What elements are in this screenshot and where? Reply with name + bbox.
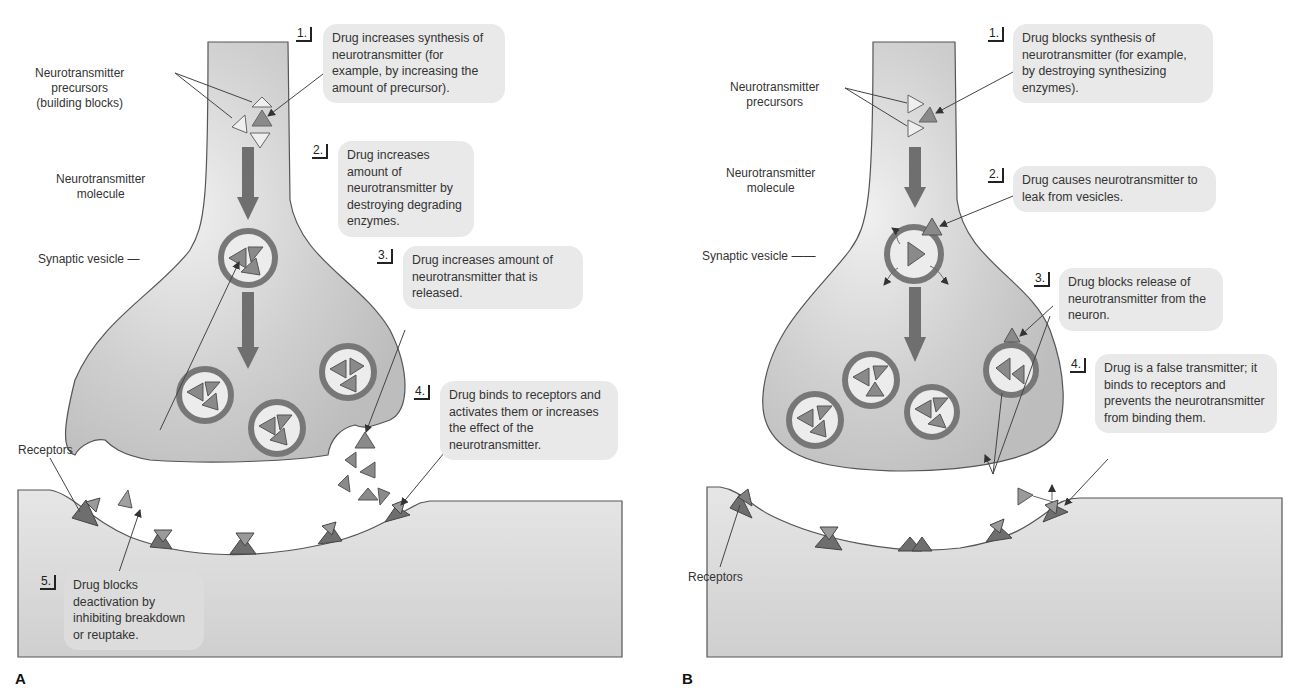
label-precursors-a-line1: Neurotransmitter — [35, 66, 124, 81]
callout-b2-number: 2. — [988, 168, 1004, 183]
callout-a2-number: 2. — [312, 144, 328, 159]
label-receptors-a: Receptors — [18, 443, 73, 458]
callout-a1-number: 1. — [296, 27, 312, 42]
vesicle-a2 — [179, 369, 231, 421]
vesicle-b1 — [845, 354, 897, 406]
label-molecule-a-line1: Neurotransmitter — [56, 172, 145, 187]
callout-b4: Drug is a false transmitter; it binds to… — [1095, 354, 1277, 433]
label-molecule-b-line1: Neurotransmitter — [726, 166, 815, 181]
label-precursors-b-line1: Neurotransmitter — [730, 80, 819, 95]
vesicle-b2 — [789, 394, 841, 446]
flow-arrow-a2 — [242, 292, 254, 347]
label-molecule-b: Neurotransmitter molecule — [726, 166, 815, 196]
callout-b1-number: 1. — [988, 27, 1004, 42]
false-transmitter-b — [1018, 485, 1053, 505]
callout-a2: Drug increases amount of neurotransmitte… — [338, 141, 474, 237]
label-vesicle-a-text: Synaptic vesicle — [38, 252, 124, 266]
label-receptors-b: Receptors — [688, 570, 743, 585]
callout-a1: Drug increases synthesis of neurotransmi… — [323, 24, 505, 103]
label-vesicle-b-text: Synaptic vesicle — [702, 249, 788, 263]
label-molecule-b-line2: molecule — [726, 181, 815, 196]
panel-a — [18, 42, 622, 657]
label-molecule-a-line2: molecule — [56, 187, 145, 202]
panel-letter-b: B — [682, 670, 693, 687]
panel-b — [707, 42, 1282, 657]
label-precursors-a-line2: precursors — [35, 81, 124, 96]
vesicle-b3 — [907, 387, 957, 437]
callout-a3-number: 3. — [377, 249, 393, 264]
callout-b2: Drug causes neurotransmitter to leak fro… — [1013, 166, 1216, 212]
callout-a3: Drug increases amount of neurotransmitte… — [403, 246, 583, 309]
label-precursors-b-line2: precursors — [730, 95, 819, 110]
flow-arrow-b1 — [909, 147, 921, 187]
label-precursors-a-line3: (building blocks) — [35, 96, 124, 111]
callout-a4-number: 4. — [414, 385, 430, 400]
callout-b1: Drug blocks synthesis of neurotransmitte… — [1013, 24, 1213, 103]
panel-letter-a: A — [15, 670, 26, 687]
vesicle-a3 — [251, 402, 303, 454]
label-precursors-b: Neurotransmitter precursors — [730, 80, 819, 110]
callout-b3-number: 3. — [1034, 272, 1050, 287]
label-vesicle-b: Synaptic vesicle —— — [702, 249, 815, 264]
label-molecule-a: Neurotransmitter molecule — [56, 172, 145, 202]
callout-b4-number: 4. — [1070, 358, 1086, 373]
callout-a5: Drug blocks deactivation by inhibiting b… — [64, 571, 204, 650]
postsynaptic-membrane-b — [707, 487, 1282, 657]
callout-b3: Drug blocks release of neurotransmitter … — [1059, 268, 1223, 331]
vesicle-a4 — [322, 346, 374, 398]
callout-a4: Drug binds to receptors and activates th… — [440, 381, 618, 460]
flow-arrow-a1 — [242, 147, 254, 197]
callout-a5-number: 5. — [40, 575, 56, 590]
label-precursors-a: Neurotransmitter precursors (building bl… — [35, 66, 124, 111]
label-vesicle-a: Synaptic vesicle — — [38, 252, 139, 267]
vesicle-a1 — [221, 231, 275, 285]
flow-arrow-b2 — [909, 287, 921, 337]
